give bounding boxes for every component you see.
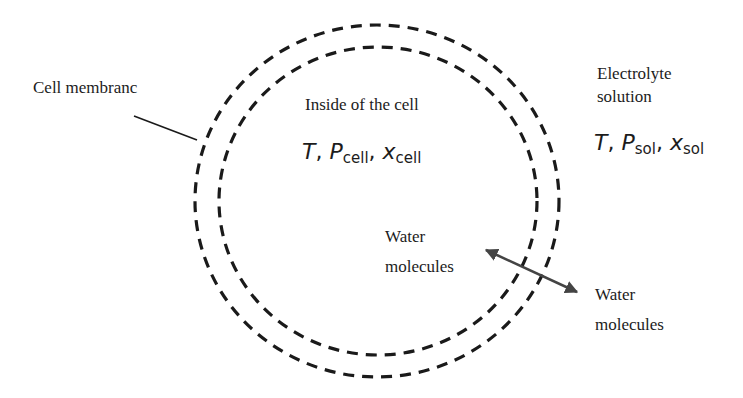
temperature-symbol: T xyxy=(594,130,607,155)
cell-state-variables: T, Pcell, xcell xyxy=(302,138,421,166)
membrane-leader-line xyxy=(134,116,197,140)
water-outside-line-2: molecules xyxy=(595,310,664,340)
separator: , xyxy=(315,139,329,164)
cell-membrane-diagram: Cell membranc Inside of the cell T, Pcel… xyxy=(0,0,743,398)
composition-subscript: sol xyxy=(683,140,704,158)
inside-cell-label: Inside of the cell xyxy=(305,93,419,116)
composition-symbol: x xyxy=(383,139,396,164)
electrolyte-line-2: solution xyxy=(597,85,672,108)
outer-membrane-boundary xyxy=(195,25,559,377)
pressure-symbol: P xyxy=(621,130,634,155)
water-outside-line-1: Water xyxy=(595,280,664,310)
composition-symbol: x xyxy=(670,130,683,155)
water-inside-line-1: Water xyxy=(385,222,454,252)
separator: , xyxy=(656,130,670,155)
solution-state-variables: T, Psol, xsol xyxy=(594,129,704,157)
cell-membrane-label: Cell membranc xyxy=(33,76,137,99)
water-molecules-inside-label: Water molecules xyxy=(385,222,454,282)
water-molecules-outside-label: Water molecules xyxy=(595,280,664,340)
pressure-symbol: P xyxy=(329,139,342,164)
electrolyte-line-1: Electrolyte xyxy=(597,62,672,85)
pressure-subscript: cell xyxy=(343,149,369,167)
water-transport-arrow-icon xyxy=(486,250,577,292)
composition-subscript: cell xyxy=(396,149,422,167)
separator: , xyxy=(607,130,621,155)
water-inside-line-2: molecules xyxy=(385,252,454,282)
pressure-subscript: sol xyxy=(635,140,656,158)
electrolyte-solution-label: Electrolyte solution xyxy=(597,62,672,108)
temperature-symbol: T xyxy=(302,139,315,164)
separator: , xyxy=(369,139,383,164)
